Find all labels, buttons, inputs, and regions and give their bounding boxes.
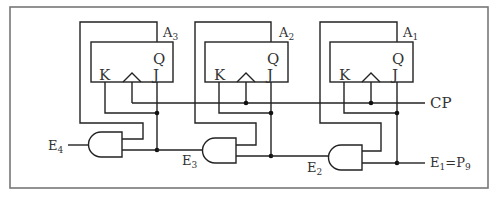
flipflop-a1: Q K J A1	[320, 22, 418, 163]
a3-j-pin: J	[151, 66, 159, 84]
and-gate-e2: E2	[307, 145, 399, 177]
circuit-diagram: Q K J A3 Q K J A2 Q K J A1 CP	[0, 0, 496, 198]
e3-label: E3	[182, 153, 198, 170]
a1-k-pin: K	[339, 66, 351, 84]
e2-label: E2	[307, 160, 322, 177]
flipflop-a2: Q K J A2	[195, 22, 294, 156]
e4-label: E4	[48, 138, 64, 155]
input-e1: E1=P9	[397, 155, 471, 172]
junction-dot	[155, 111, 160, 116]
a2-label: A2	[278, 25, 294, 42]
junction-dot	[269, 111, 274, 116]
flipflop-a3: Q K J A3	[80, 22, 178, 150]
a2-j-pin: J	[265, 66, 273, 84]
a3-label: A3	[162, 25, 178, 42]
a1-label: A1	[402, 25, 418, 42]
a2-k-pin: K	[214, 66, 226, 84]
and-gate-e3: E3	[182, 138, 273, 170]
clock-line: CP	[132, 94, 452, 112]
junction-dot	[395, 111, 400, 116]
clock-label: CP	[430, 94, 452, 112]
a1-j-pin: J	[390, 66, 398, 84]
a3-k-pin: K	[99, 66, 111, 84]
e1-p9-label: E1=P9	[430, 155, 471, 172]
